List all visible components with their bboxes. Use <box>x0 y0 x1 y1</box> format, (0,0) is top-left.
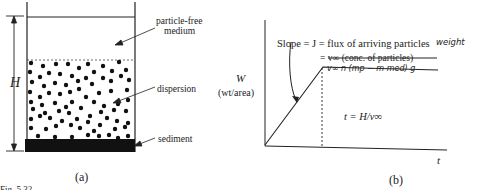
particle-free-label-line2: medium <box>164 26 196 36</box>
label-arrows <box>113 28 155 146</box>
slope-pointer-arrowhead <box>292 96 299 103</box>
sediment-layer <box>25 139 135 152</box>
slope-handwritten-expression: v∞ n (mp − m med) g <box>327 64 415 73</box>
height-label: H <box>9 75 21 90</box>
settling-time-label: t = H/v∞ <box>344 111 382 122</box>
x-axis <box>265 146 447 150</box>
sedimentation-figure: H particle-free medium dispersion sedime… <box>0 0 480 190</box>
panel-b-caption: (b) <box>389 173 403 187</box>
sediment-label: sediment <box>158 134 193 144</box>
slope-pointer-arrow <box>290 42 296 100</box>
slope-handwritten-addition: weight <box>436 37 465 47</box>
x-axis-label: t <box>437 154 441 166</box>
panel-a-caption: (a) <box>75 170 88 184</box>
figure-caption-fragment: Fig. 5.32 <box>0 184 32 190</box>
panel-a: H particle-free medium dispersion sedime… <box>0 2 202 190</box>
particle-free-label-line1: particle-free <box>156 16 202 26</box>
panel-b: W (wt/area) t Slope = J = flux of arrivi… <box>218 20 465 187</box>
dispersion-label: dispersion <box>157 84 196 94</box>
slope-annotation: Slope = J = flux of arriving particles <box>277 38 430 49</box>
y-axis-label-w: W <box>236 72 246 84</box>
y-axis-label-units: (wt/area) <box>218 87 254 99</box>
particles <box>28 60 131 140</box>
